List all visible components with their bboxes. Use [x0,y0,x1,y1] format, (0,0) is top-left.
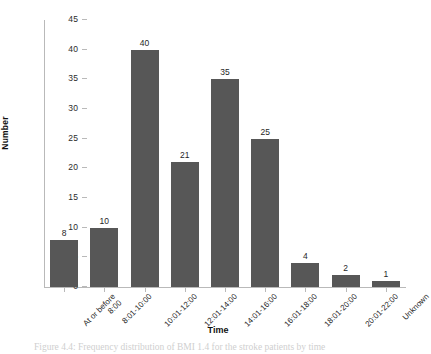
x-axis-title: Time [186,325,250,335]
y-tick-label: 15 [44,192,78,202]
y-tick-mark [82,19,87,20]
bar[interactable] [171,162,199,287]
y-tick-label: 40 [44,44,78,54]
bar-value-label: 2 [326,263,366,273]
y-tick-mark [82,286,87,287]
bar[interactable] [211,79,239,287]
bar-value-label: 10 [84,216,124,226]
bar[interactable] [372,281,400,287]
y-tick-label: 30 [44,103,78,113]
x-tick-mark [225,288,226,292]
x-tick-label: 20:01-22:00 [363,292,400,329]
x-tick-mark [145,288,146,292]
x-tick-mark [104,288,105,292]
x-tick-mark [185,288,186,292]
bar[interactable] [50,240,78,287]
bar[interactable] [251,139,279,287]
y-tick-label: 25 [44,133,78,143]
x-tick-label-line: 18:01-20:00 [323,292,360,329]
x-tick-label: Unknown [401,292,431,322]
x-tick-label: 10:01-12:00 [162,292,199,329]
x-tick-label-line: Unknown [401,292,431,322]
bar[interactable] [332,275,360,287]
x-tick-mark [64,288,65,292]
bar-value-label: 40 [125,38,165,48]
bar-value-label: 4 [285,251,325,261]
bar-value-label: 35 [205,67,245,77]
x-tick-label: 14:01-16:00 [243,292,280,329]
x-tick-label-line: 16:01-18:00 [283,292,320,329]
bar[interactable] [131,50,159,287]
bar-value-label: 25 [245,127,285,137]
y-tick-label: 35 [44,73,78,83]
y-tick-mark [82,197,87,198]
bar[interactable] [90,228,118,287]
y-tick-mark [82,167,87,168]
y-tick-mark [82,78,87,79]
x-tick-label: 8:01-10:00 [121,292,154,325]
y-tick-mark [82,49,87,50]
x-tick-mark [346,288,347,292]
x-tick-label: At or before8:00 [81,292,123,334]
y-tick-label: 45 [44,14,78,24]
bar-value-label: 8 [44,228,84,238]
y-tick-mark [82,138,87,139]
x-tick-label-line: 8:01-10:00 [121,292,154,325]
x-tick-label: 16:01-18:00 [283,292,320,329]
x-tick-label: 18:01-20:00 [323,292,360,329]
x-tick-label-line: 14:01-16:00 [243,292,280,329]
bar-value-label: 1 [366,269,406,279]
bar[interactable] [291,263,319,287]
x-tick-label: 12:01-14:00 [202,292,239,329]
x-tick-mark [305,288,306,292]
plot-area: 051015202530354045 81040213525421 [44,20,406,287]
bar-value-label: 21 [165,150,205,160]
x-tick-label-line: 10:01-12:00 [162,292,199,329]
figure-caption: Figure 4.4: Frequency distribution of BM… [34,342,414,352]
y-tick-mark [82,256,87,257]
x-tick-mark [386,288,387,292]
y-axis-title: Number [0,83,10,183]
x-tick-label-line: 20:01-22:00 [363,292,400,329]
y-tick-mark [82,108,87,109]
x-tick-mark [265,288,266,292]
y-tick-label: 20 [44,162,78,172]
x-tick-label-line: 12:01-14:00 [202,292,239,329]
